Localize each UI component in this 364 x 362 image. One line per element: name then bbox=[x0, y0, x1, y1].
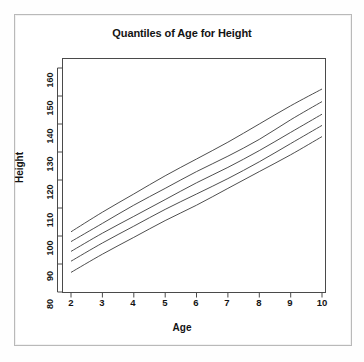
chart-page: Quantiles of Age for Height Height Age 1… bbox=[0, 0, 364, 362]
x-axis bbox=[71, 293, 322, 298]
quantile-curve bbox=[71, 89, 322, 232]
plot-border bbox=[63, 59, 326, 293]
quantile-curve bbox=[71, 102, 322, 242]
quantile-curve bbox=[71, 125, 322, 261]
quantile-curve bbox=[71, 137, 322, 273]
plot-area bbox=[0, 0, 364, 362]
quantile-curve bbox=[71, 114, 322, 251]
y-axis bbox=[58, 68, 63, 292]
quantile-curves bbox=[71, 89, 322, 272]
quantile-chart: Quantiles of Age for Height Height Age 1… bbox=[0, 0, 364, 362]
